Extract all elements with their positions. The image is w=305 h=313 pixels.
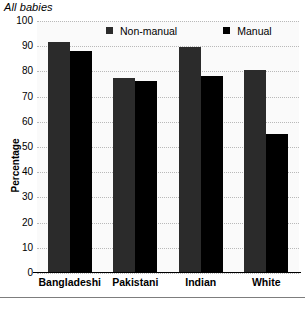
legend-square-icon bbox=[223, 27, 230, 34]
y-axis-tick-label: 90 bbox=[3, 41, 33, 51]
y-axis-tick-label: 30 bbox=[3, 192, 33, 202]
chart-legend: Non-manual Manual bbox=[106, 24, 272, 37]
chart-title: All babies bbox=[4, 1, 53, 13]
bar bbox=[244, 70, 266, 273]
gridline bbox=[37, 273, 299, 274]
x-axis-tick-label: Indian bbox=[185, 276, 216, 288]
bars-layer bbox=[37, 21, 299, 273]
bar bbox=[179, 47, 201, 273]
y-axis-tick-label: 80 bbox=[3, 66, 33, 76]
bar bbox=[135, 81, 157, 273]
x-axis-tick-labels: BangladeshiPakistaniIndianWhite bbox=[37, 276, 299, 292]
y-axis-tick-label: 40 bbox=[3, 167, 33, 177]
x-axis-tick-label: Pakistani bbox=[112, 276, 158, 288]
legend-entry-non-manual: Non-manual bbox=[106, 25, 177, 37]
bar bbox=[113, 78, 135, 273]
y-axis-tick-labels: 0102030405060708090100 bbox=[0, 21, 33, 273]
y-axis-tick-label: 60 bbox=[3, 117, 33, 127]
y-axis-tick-label: 10 bbox=[3, 243, 33, 253]
y-axis-tick-label: 50 bbox=[3, 142, 33, 152]
bar bbox=[48, 42, 70, 273]
legend-label-manual: Manual bbox=[237, 25, 271, 37]
x-axis-line bbox=[33, 272, 301, 273]
legend-label-non-manual: Non-manual bbox=[120, 25, 177, 37]
bar-chart-figure: All babies Percentage 010203040506070809… bbox=[0, 0, 305, 313]
y-axis-tick-label: 70 bbox=[3, 92, 33, 102]
bar bbox=[201, 76, 223, 273]
legend-entry-manual: Manual bbox=[223, 25, 271, 37]
y-axis-tick-label: 100 bbox=[3, 16, 33, 26]
legend-square-icon bbox=[106, 27, 113, 34]
x-axis-tick-label: Bangladeshi bbox=[39, 276, 101, 288]
y-axis-tick-label: 20 bbox=[3, 218, 33, 228]
bottom-divider bbox=[0, 297, 305, 298]
plot-area bbox=[37, 21, 299, 273]
x-axis-tick-label: White bbox=[252, 276, 281, 288]
bar bbox=[70, 51, 92, 273]
y-axis-tick-label: 0 bbox=[3, 268, 33, 278]
bar bbox=[266, 134, 288, 273]
